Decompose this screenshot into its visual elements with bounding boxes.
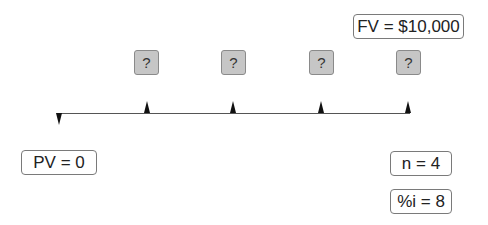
down-arrow-icon bbox=[56, 113, 62, 125]
interest-rate-label: %i = 8 bbox=[390, 189, 452, 214]
timeline bbox=[57, 113, 410, 114]
payment-box-2: ? bbox=[221, 50, 246, 75]
present-value-label: PV = 0 bbox=[21, 150, 97, 175]
payment-box-3: ? bbox=[309, 50, 334, 75]
up-arrow-icon bbox=[318, 101, 324, 113]
periods-label: n = 4 bbox=[390, 151, 452, 176]
up-arrow-icon bbox=[405, 101, 411, 113]
payment-box-1: ? bbox=[134, 50, 159, 75]
up-arrow-icon bbox=[230, 101, 236, 113]
payment-box-4: ? bbox=[396, 50, 421, 75]
future-value-label: FV = $10,000 bbox=[353, 14, 464, 39]
up-arrow-icon bbox=[144, 101, 150, 113]
